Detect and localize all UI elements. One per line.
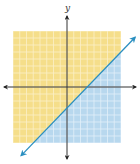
inequality-graph: y	[0, 0, 140, 164]
y-axis-label: y	[64, 3, 71, 13]
